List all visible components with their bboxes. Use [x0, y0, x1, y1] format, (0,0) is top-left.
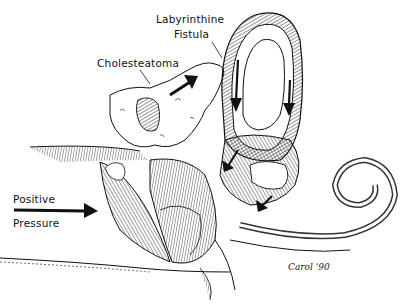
ear-anatomy-illustration: [0, 0, 401, 306]
label-labyrinthine: Labyrinthine: [156, 14, 224, 25]
fistula-leader-line: [212, 42, 222, 58]
signature-year: '90: [316, 262, 330, 272]
signature-name: Carol: [288, 262, 313, 272]
cholesteatoma-leader-line: [140, 70, 150, 84]
artist-signature: Carol '90: [288, 262, 330, 272]
cholesteatoma-mass: [110, 63, 224, 147]
label-fistula: Fistula: [174, 29, 209, 40]
label-positive: Positive: [13, 194, 55, 205]
label-cholesteatoma: Cholesteatoma: [97, 58, 179, 69]
positive-pressure-arrow: [14, 203, 98, 218]
label-pressure: Pressure: [13, 218, 59, 229]
vestibule: [220, 135, 299, 205]
